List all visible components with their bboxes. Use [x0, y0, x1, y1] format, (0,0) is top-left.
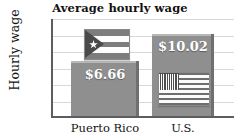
x-tick-label-puerto-rico: Puerto Rico	[55, 121, 155, 135]
bar-highlight	[152, 34, 214, 36]
plot-area: $6.66 $10.02	[51, 19, 234, 118]
x-tick-label-us: U.S.	[153, 121, 213, 135]
bar-puerto-rico[interactable]: $6.66	[71, 61, 139, 116]
bar-value-us: $10.02	[152, 39, 214, 54]
chart-title: Average hourly wage	[0, 1, 240, 15]
x-axis-line	[51, 116, 234, 118]
flag-puerto-rico-icon	[84, 29, 130, 60]
y-axis-line	[51, 19, 53, 118]
bar-chart: Average hourly wage Hourly wage $12 $10 …	[0, 0, 240, 137]
bar-highlight	[71, 61, 139, 63]
bar-value-puerto-rico: $6.66	[71, 67, 139, 82]
flag-canton	[159, 73, 179, 90]
flag-united-states-icon	[158, 72, 210, 106]
y-axis-label: Hourly wage	[7, 13, 22, 91]
gridline-12	[52, 19, 234, 20]
